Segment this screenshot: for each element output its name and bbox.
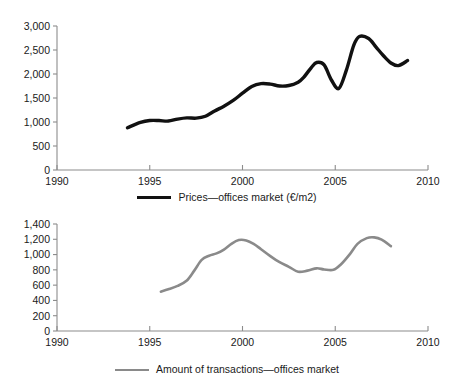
x-axis-tick-label: 1990 bbox=[45, 336, 69, 348]
figure-container: 05001,0001,5002,0002,5003,00019901995200… bbox=[0, 0, 454, 386]
y-axis-tick-label: 1,200 bbox=[24, 233, 50, 245]
x-axis-tick-label: 1995 bbox=[138, 336, 162, 348]
data-series-line bbox=[161, 237, 391, 291]
y-axis-tick-label: 3,000 bbox=[24, 20, 50, 32]
data-series-line bbox=[127, 36, 407, 128]
x-axis-tick-label: 2000 bbox=[231, 175, 255, 187]
y-axis-tick-label: 1,400 bbox=[24, 218, 50, 230]
y-axis-tick-label: 800 bbox=[32, 264, 50, 276]
y-axis-tick-label: 1,000 bbox=[24, 248, 50, 260]
x-axis-tick-label: 1990 bbox=[45, 175, 69, 187]
chart-panel-transactions: 02004006008001,0001,2001,400199019952000… bbox=[0, 200, 454, 386]
legend-label-transactions: Amount of transactions—offices market bbox=[156, 363, 339, 376]
prices-chart-svg: 05001,0001,5002,0002,5003,00019901995200… bbox=[0, 0, 454, 212]
y-axis-tick-label: 600 bbox=[32, 279, 50, 291]
x-axis-tick-label: 2005 bbox=[324, 336, 348, 348]
y-axis-tick-label: 2,000 bbox=[24, 68, 50, 80]
y-axis-tick-label: 1,000 bbox=[24, 116, 50, 128]
x-axis-tick-label: 2010 bbox=[416, 175, 440, 187]
chart-panel-prices: 05001,0001,5002,0002,5003,00019901995200… bbox=[0, 0, 454, 212]
y-axis-tick-label: 2,500 bbox=[24, 44, 50, 56]
transactions-chart-svg: 02004006008001,0001,2001,400199019952000… bbox=[0, 200, 454, 386]
y-axis-tick-label: 200 bbox=[32, 310, 50, 322]
y-axis-tick-label: 0 bbox=[44, 164, 50, 176]
legend-line-swatch-transactions-icon bbox=[115, 369, 149, 371]
x-axis-tick-label: 2005 bbox=[324, 175, 348, 187]
x-axis-tick-label: 1995 bbox=[138, 175, 162, 187]
y-axis-tick-label: 1,500 bbox=[24, 92, 50, 104]
legend-transactions: Amount of transactions—offices market bbox=[0, 363, 454, 376]
y-axis-tick-label: 500 bbox=[32, 140, 50, 152]
x-axis-tick-label: 2010 bbox=[416, 336, 440, 348]
y-axis-tick-label: 0 bbox=[44, 325, 50, 337]
x-axis-tick-label: 2000 bbox=[231, 336, 255, 348]
y-axis-tick-label: 400 bbox=[32, 294, 50, 306]
legend-line-swatch-prices-icon bbox=[137, 196, 171, 199]
